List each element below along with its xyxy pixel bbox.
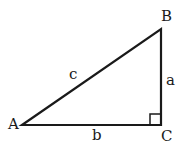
triangle-diagram: A B C a b c xyxy=(0,0,193,149)
vertex-label-a: A xyxy=(8,117,19,132)
vertex-label-b: B xyxy=(161,9,172,24)
side-label-a: a xyxy=(166,73,175,88)
side-label-c: c xyxy=(69,67,77,82)
side-label-b: b xyxy=(92,128,102,143)
vertex-label-c: C xyxy=(161,129,172,144)
triangle-shape xyxy=(22,29,161,125)
right-angle-marker xyxy=(150,114,161,125)
